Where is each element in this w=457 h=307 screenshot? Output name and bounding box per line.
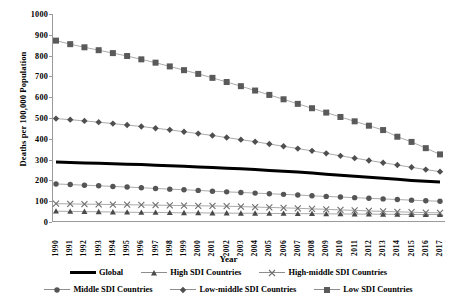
data-point — [366, 157, 372, 163]
data-point — [167, 63, 173, 69]
data-point — [352, 195, 357, 200]
data-point — [281, 96, 287, 102]
data-point — [181, 187, 186, 192]
data-point — [139, 185, 144, 190]
data-point — [153, 60, 159, 66]
legend-label: Middle SDI Countries — [73, 285, 152, 294]
data-point — [110, 50, 116, 56]
data-point — [437, 168, 443, 174]
legend-label: Low-middle SDI Countries — [199, 285, 296, 294]
data-point — [67, 41, 73, 47]
data-point — [153, 186, 158, 191]
x-axis-title: Year — [0, 254, 457, 264]
data-point — [267, 191, 272, 196]
legend-item-low-sdi-countries[interactable]: Low SDI Countries — [314, 284, 412, 295]
data-point — [337, 114, 343, 120]
data-point — [380, 160, 386, 166]
data-point — [366, 123, 372, 129]
data-point — [252, 88, 258, 94]
data-point — [224, 189, 229, 194]
data-point — [437, 199, 442, 204]
y-tick-label: 0 — [44, 218, 48, 227]
data-point — [195, 130, 201, 136]
legend-marker-cross-icon — [267, 268, 277, 278]
data-point — [324, 194, 329, 199]
data-point — [152, 125, 158, 131]
series-middle-sdi-countries — [53, 181, 442, 204]
data-point — [394, 134, 400, 140]
y-tick-label: 400 — [35, 134, 48, 143]
data-point — [408, 164, 414, 170]
legend-marker-circle-icon — [52, 285, 62, 295]
legend-label: Low SDI Countries — [343, 285, 412, 294]
chart-container: Deaths per 100,000 Population 0100200300… — [0, 0, 457, 307]
data-point — [266, 141, 272, 147]
data-point — [252, 190, 257, 195]
y-axis-ticks: 01002003004005006007008009001000 — [0, 14, 48, 222]
data-point — [138, 123, 144, 129]
legend-item-middle-sdi-countries[interactable]: Middle SDI Countries — [44, 284, 152, 295]
data-point — [295, 101, 301, 107]
data-point — [351, 155, 357, 161]
data-point — [338, 194, 343, 199]
data-point — [337, 153, 343, 159]
data-point — [281, 192, 286, 197]
data-point — [423, 198, 428, 203]
legend-symbol — [170, 284, 196, 295]
y-tick-label: 500 — [35, 114, 48, 123]
legend-label: Global — [99, 268, 123, 277]
legend-line — [70, 271, 96, 274]
legend-item-global[interactable]: Global — [70, 267, 123, 278]
data-point — [210, 189, 215, 194]
y-tick-label: 200 — [35, 176, 48, 185]
chart-legend: GlobalHigh SDI CountriesHigh-middle SDI … — [0, 264, 457, 304]
legend-item-low-middle-sdi-countries[interactable]: Low-middle SDI Countries — [170, 284, 296, 295]
data-point — [209, 75, 215, 81]
data-point — [209, 132, 215, 138]
legend-row: Middle SDI CountriesLow-middle SDI Count… — [0, 281, 457, 298]
y-tick-label: 900 — [35, 30, 48, 39]
legend-label: High-middle SDI Countries — [288, 268, 387, 277]
data-point — [423, 166, 429, 172]
data-point — [167, 127, 173, 133]
y-tick-label: 300 — [35, 155, 48, 164]
data-point — [309, 105, 315, 111]
data-point — [181, 129, 187, 135]
data-point — [280, 143, 286, 149]
legend-symbol — [314, 284, 340, 295]
legend-marker-triangle-icon — [149, 268, 159, 278]
data-point — [238, 83, 244, 89]
legend-symbol — [44, 284, 70, 295]
data-point — [82, 182, 87, 187]
data-point — [138, 56, 144, 62]
data-point — [395, 197, 400, 202]
legend-item-high-sdi-countries[interactable]: High SDI Countries — [141, 267, 241, 278]
legend-symbol — [259, 267, 285, 278]
data-point — [409, 197, 414, 202]
data-point — [309, 148, 315, 154]
data-point — [81, 118, 87, 124]
series-line — [56, 41, 440, 155]
y-tick-label: 700 — [35, 72, 48, 81]
data-point — [323, 110, 329, 116]
data-point — [380, 196, 385, 201]
series-low-middle-sdi-countries — [53, 115, 443, 174]
y-tick-label: 100 — [35, 197, 48, 206]
legend-item-high-middle-sdi-countries[interactable]: High-middle SDI Countries — [259, 267, 387, 278]
data-point — [380, 127, 386, 133]
data-point — [295, 145, 301, 151]
data-point — [53, 181, 58, 186]
data-point — [124, 184, 129, 189]
data-point — [81, 44, 87, 50]
data-point — [224, 79, 230, 85]
data-point — [181, 67, 187, 73]
data-point — [124, 122, 130, 128]
legend-symbol — [70, 267, 96, 278]
data-point — [352, 118, 358, 124]
data-point — [366, 196, 371, 201]
data-point — [96, 47, 102, 53]
data-point — [95, 119, 101, 125]
data-point — [309, 193, 314, 198]
data-point — [110, 120, 116, 126]
series-layer — [52, 14, 444, 222]
